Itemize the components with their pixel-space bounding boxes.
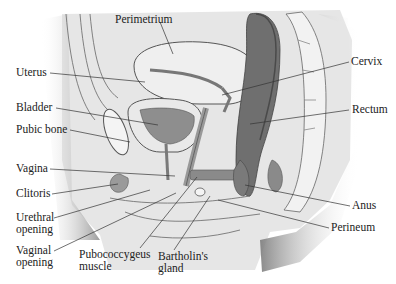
label-cervix: Cervix: [351, 55, 382, 67]
label-anus: Anus: [352, 199, 376, 211]
label-clitoris: Clitoris: [16, 187, 51, 199]
label-bartholins-gland: Bartholin's gland: [158, 250, 208, 274]
pelvic-anatomy-diagram: [0, 0, 396, 284]
label-urethral-opening: Urethral opening: [16, 211, 54, 235]
label-rectum: Rectum: [352, 103, 388, 115]
label-perimetrium: Perimetrium: [115, 13, 173, 25]
label-bladder: Bladder: [16, 101, 52, 113]
label-pubic-bone: Pubic bone: [16, 123, 67, 135]
label-vagina: Vagina: [16, 162, 48, 174]
label-vaginal-opening: Vaginal opening: [16, 244, 53, 268]
label-pubococcygeus-muscle: Pubococcygeus muscle: [79, 248, 151, 272]
label-perineum: Perineum: [331, 221, 375, 233]
label-uterus: Uterus: [16, 66, 47, 78]
